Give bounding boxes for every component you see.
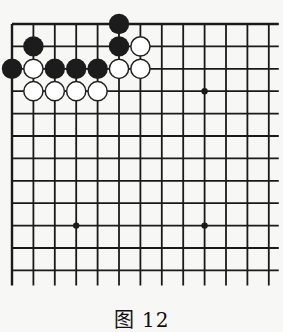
white-stone-icon xyxy=(24,82,43,101)
black-stone-icon xyxy=(23,36,43,56)
star-point-icon xyxy=(201,222,207,228)
star-point-icon xyxy=(201,88,207,94)
black-stone-icon xyxy=(109,14,129,34)
white-stone-icon xyxy=(67,82,86,101)
black-stone-icon xyxy=(2,59,22,79)
white-stone-icon xyxy=(88,82,107,101)
white-stone-icon xyxy=(131,59,150,78)
white-stone-icon xyxy=(131,37,150,56)
black-stone-icon xyxy=(87,59,107,79)
white-stone-icon xyxy=(24,59,43,78)
go-board xyxy=(0,0,283,300)
white-stone-icon xyxy=(109,59,128,78)
black-stone-icon xyxy=(109,36,129,56)
black-stone-icon xyxy=(66,59,86,79)
black-stone-icon xyxy=(45,59,65,79)
white-stone-icon xyxy=(45,82,64,101)
star-point-icon xyxy=(73,222,79,228)
figure-caption: 图 12 xyxy=(0,304,283,332)
